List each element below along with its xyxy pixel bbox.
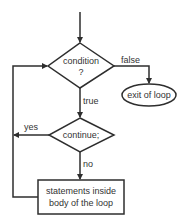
no-label: no bbox=[83, 159, 93, 169]
condition-question: ? bbox=[78, 67, 83, 77]
flowchart: condition ? false exit of loop true cont… bbox=[0, 0, 187, 224]
continue-label: continue; bbox=[63, 130, 100, 140]
true-label: true bbox=[83, 96, 99, 106]
false-edge bbox=[114, 66, 149, 83]
yes-label: yes bbox=[24, 122, 39, 132]
statements-label-line2: body of the loop bbox=[49, 198, 113, 208]
false-label: false bbox=[121, 55, 140, 65]
condition-label: condition bbox=[63, 56, 99, 66]
exit-of-loop-label: exit of loop bbox=[127, 90, 171, 100]
statements-label-line1: statements inside bbox=[46, 186, 116, 196]
